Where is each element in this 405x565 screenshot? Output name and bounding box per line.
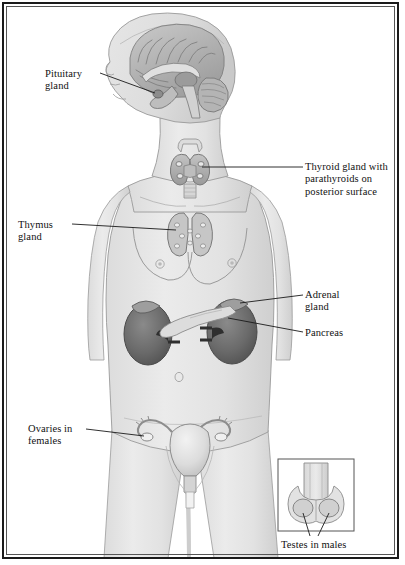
label-ovaries: Ovaries in females <box>28 423 72 448</box>
label-adrenal-gland: Adrenal gland <box>305 289 340 314</box>
label-thyroid-gland: Thyroid gland with parathyroids on poste… <box>305 161 403 198</box>
label-testes: Testes in males <box>281 539 347 551</box>
pituitary-gland-shape <box>153 90 163 98</box>
endocrine-system-figure: Pituitary gland Thyroid gland with parat… <box>0 0 405 565</box>
label-pituitary-gland: Pituitary gland <box>45 68 82 93</box>
label-thymus-gland: Thymus gland <box>18 219 53 244</box>
head-profile-section <box>106 13 235 123</box>
label-pancreas: Pancreas <box>305 327 343 339</box>
testes-inset <box>278 459 354 531</box>
